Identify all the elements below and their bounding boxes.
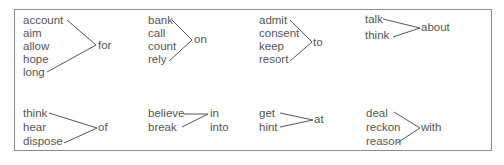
preposition: with — [421, 121, 441, 134]
verb: break — [148, 121, 177, 134]
verb: call — [148, 27, 165, 40]
verb: long — [23, 66, 45, 79]
verb: reason — [366, 135, 401, 148]
verb: reckon — [366, 121, 401, 134]
verb: allow — [23, 40, 49, 53]
preposition: about — [421, 21, 450, 34]
verb: aim — [23, 27, 42, 40]
verb: bank — [148, 14, 173, 27]
preposition: on — [194, 33, 207, 46]
verb: hint — [259, 121, 278, 134]
verb: keep — [259, 40, 284, 53]
preposition: into — [210, 121, 229, 134]
verb: consent — [259, 27, 299, 40]
verb: think — [365, 29, 389, 42]
verb: deal — [366, 107, 388, 120]
preposition: of — [98, 121, 108, 134]
verb: think — [23, 107, 47, 120]
verb: count — [148, 40, 176, 53]
preposition: at — [314, 113, 324, 126]
verb: account — [23, 14, 63, 27]
verb: rely — [148, 53, 167, 66]
verb: resort — [259, 53, 288, 66]
verb: believe — [148, 107, 184, 120]
verb: admit — [259, 14, 287, 27]
preposition: in — [210, 107, 219, 120]
verb: get — [259, 107, 275, 120]
verb: talk — [365, 13, 383, 26]
verb: hear — [23, 121, 46, 134]
preposition: to — [313, 36, 323, 49]
preposition: for — [98, 39, 111, 52]
verb: hope — [23, 53, 49, 66]
verb: dispose — [23, 135, 63, 148]
